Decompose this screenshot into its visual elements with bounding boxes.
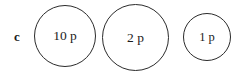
coin-label-10p: 10 p (53, 29, 77, 43)
coin-label-2p: 2 p (127, 31, 144, 45)
coin-circle-1p: 1 p (183, 13, 231, 61)
coin-label-1p: 1 p (199, 31, 215, 44)
panel-label-c: c (9, 29, 25, 45)
coin-circle-10p: 10 p (34, 5, 96, 67)
coin-diagram-panel: c 10 p 2 p 1 p (0, 0, 240, 72)
coin-circle-2p: 2 p (102, 4, 169, 71)
